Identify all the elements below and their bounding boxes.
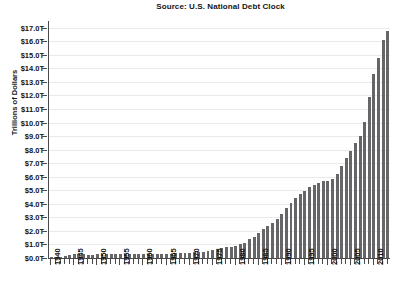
bar (234, 246, 237, 258)
y-tick-label: $8.0T (0, 146, 44, 155)
x-tick-mark (364, 259, 365, 264)
bar (160, 254, 163, 258)
x-tick-label: 1985 (261, 248, 270, 265)
y-tick-mark (42, 244, 47, 245)
bar (363, 122, 366, 258)
y-tick-label: $13.0T (0, 78, 44, 87)
x-tick-mark (207, 259, 208, 264)
x-tick-mark (87, 259, 88, 264)
y-tick-label: $7.0T (0, 159, 44, 168)
y-tick-mark (42, 82, 47, 83)
bar (359, 136, 362, 258)
x-tick-mark (179, 259, 180, 264)
x-tick-label: 1980 (238, 248, 247, 265)
bar (137, 254, 140, 258)
y-tick-mark (42, 190, 47, 191)
bar (202, 252, 205, 258)
bar (188, 253, 191, 258)
x-tick-label: 1940 (53, 248, 62, 265)
x-tick-label: 1990 (284, 248, 293, 265)
bar-series (49, 21, 390, 258)
x-tick-mark (115, 259, 116, 264)
bar (276, 219, 279, 258)
bar (87, 255, 90, 258)
x-tick-mark (318, 259, 319, 264)
x-tick-mark (202, 259, 203, 264)
y-tick-mark (42, 258, 47, 259)
bar (253, 237, 256, 258)
bar (165, 254, 168, 258)
x-tick-label: 1945 (76, 248, 85, 265)
x-tick-mark (161, 259, 162, 264)
x-tick-mark (345, 259, 346, 264)
y-tick-mark (42, 150, 47, 151)
x-tick-mark (253, 259, 254, 264)
bar (230, 247, 233, 259)
y-tick-mark (42, 95, 47, 96)
bar (340, 166, 343, 258)
bar (110, 254, 113, 258)
x-tick-mark (368, 259, 369, 264)
bar (322, 181, 325, 258)
bar (184, 253, 187, 258)
y-tick-label: $17.0T (0, 24, 44, 33)
bar (294, 198, 297, 258)
bar-slot (385, 21, 390, 258)
bar (299, 194, 302, 258)
bar (207, 251, 210, 258)
x-tick-mark (276, 259, 277, 264)
bar (382, 40, 385, 258)
x-tick-mark (387, 259, 388, 264)
bar (354, 143, 357, 258)
y-tick-mark (42, 28, 47, 29)
x-tick-label: 1960 (145, 248, 154, 265)
x-tick-label: 1955 (122, 248, 131, 265)
x-tick-mark (322, 259, 323, 264)
bar (368, 97, 371, 258)
x-axis-labels: 1940194519501955196019651970197519801985… (48, 265, 389, 289)
bar (91, 255, 94, 258)
bar (386, 31, 389, 258)
y-tick-label: $0.0T (0, 254, 44, 263)
x-tick-mark (69, 259, 70, 264)
y-tick-label: $11.0T (0, 105, 44, 114)
bar (345, 158, 348, 258)
y-tick-label: $15.0T (0, 51, 44, 60)
bar (248, 239, 251, 258)
x-tick-mark (110, 259, 111, 264)
y-tick-label: $1.0T (0, 240, 44, 249)
x-tick-label: 2010 (376, 248, 385, 265)
x-tick-mark (341, 259, 342, 264)
bar (225, 247, 228, 258)
bar (64, 256, 67, 258)
y-tick-label: $6.0T (0, 173, 44, 182)
bar (372, 74, 375, 258)
y-tick-label: $10.0T (0, 119, 44, 128)
bar (377, 58, 380, 258)
x-tick-label: 1950 (99, 248, 108, 265)
y-tick-mark (42, 177, 47, 178)
y-tick-mark (42, 41, 47, 42)
y-tick-label: $14.0T (0, 64, 44, 73)
bar (280, 214, 283, 258)
bar (68, 255, 71, 258)
plot-area (48, 21, 390, 259)
y-tick-mark (42, 204, 47, 205)
bar (349, 151, 352, 258)
y-tick-mark (42, 163, 47, 164)
x-tick-label: 2005 (353, 248, 362, 265)
chart-title: Source: U.S. National Debt Clock (48, 2, 393, 11)
y-tick-label: $4.0T (0, 200, 44, 209)
x-tick-mark (248, 259, 249, 264)
bar (114, 254, 117, 258)
x-tick-mark (92, 259, 93, 264)
bar (336, 174, 339, 258)
y-tick-mark (42, 136, 47, 137)
x-tick-mark (138, 259, 139, 264)
x-tick-mark (156, 259, 157, 264)
bar (331, 179, 334, 258)
x-tick-mark (225, 259, 226, 264)
bar (303, 191, 306, 258)
y-tick-mark (42, 217, 47, 218)
y-tick-mark (42, 123, 47, 124)
